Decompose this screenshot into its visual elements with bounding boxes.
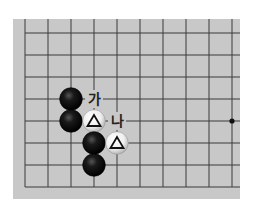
go-board-diagram: 가나 — [0, 0, 255, 205]
white-stone — [83, 110, 106, 133]
star-points — [229, 118, 234, 123]
point-label: 가 — [88, 91, 101, 107]
black-stone — [60, 88, 83, 111]
white-stone — [106, 132, 129, 155]
black-stone — [83, 132, 106, 155]
star-point — [229, 118, 234, 123]
black-stone — [83, 154, 106, 177]
point-label: 나 — [111, 113, 124, 129]
black-stone — [60, 110, 83, 133]
board-background — [13, 19, 240, 199]
